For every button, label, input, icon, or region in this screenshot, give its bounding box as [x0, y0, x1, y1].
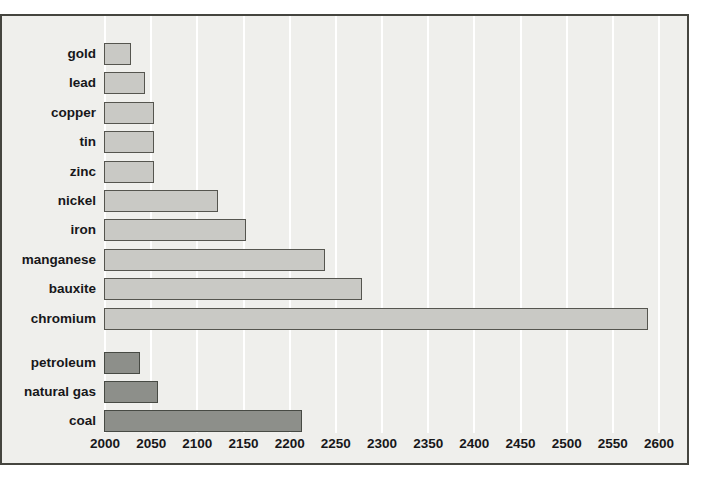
- x-axis-tick-label: 2300: [360, 435, 404, 452]
- gridline: [520, 16, 522, 433]
- bar: [104, 381, 158, 403]
- bar-category-label: nickel: [2, 192, 96, 210]
- gridline: [566, 16, 568, 433]
- gridline: [427, 16, 429, 433]
- bar-category-label: chromium: [2, 310, 96, 328]
- x-axis-tick-label: 2500: [545, 435, 589, 452]
- gridline: [612, 16, 614, 433]
- x-axis-tick-label: 2200: [268, 435, 312, 452]
- bar: [104, 102, 154, 124]
- x-axis-tick-label: 2250: [314, 435, 358, 452]
- bar-category-label: bauxite: [2, 280, 96, 298]
- bar: [104, 190, 218, 212]
- bar-category-label: iron: [2, 221, 96, 239]
- bar: [104, 43, 131, 65]
- bar-category-label: zinc: [2, 163, 96, 181]
- x-axis-tick-label: 2000: [83, 435, 127, 452]
- bar: [104, 131, 154, 153]
- bar-category-label: gold: [2, 45, 96, 63]
- bar-category-label: manganese: [2, 251, 96, 269]
- bar: [104, 72, 145, 94]
- x-axis-tick-label: 2450: [499, 435, 543, 452]
- bar-category-label: copper: [2, 104, 96, 122]
- x-axis-tick-label: 2350: [406, 435, 450, 452]
- bar-category-label: petroleum: [2, 354, 96, 372]
- gridline: [335, 16, 337, 433]
- gridline: [658, 16, 660, 433]
- bar: [104, 410, 302, 432]
- x-axis-tick-label: 2400: [452, 435, 496, 452]
- gridline: [289, 16, 291, 433]
- bar: [104, 249, 325, 271]
- bar-category-label: lead: [2, 74, 96, 92]
- x-axis-tick-label: 2100: [175, 435, 219, 452]
- plot-area: 2000205021002150220022502300235024002450…: [0, 14, 689, 465]
- bar: [104, 308, 648, 330]
- bar: [104, 278, 362, 300]
- x-axis-tick-label: 2550: [591, 435, 635, 452]
- bar: [104, 219, 246, 241]
- x-axis-tick-label: 2600: [637, 435, 681, 452]
- bar: [104, 161, 154, 183]
- bar-category-label: coal: [2, 412, 96, 430]
- x-axis-tick-label: 2150: [222, 435, 266, 452]
- x-axis-tick-label: 2050: [129, 435, 173, 452]
- gridline: [473, 16, 475, 433]
- bar: [104, 352, 140, 374]
- gridline: [381, 16, 383, 433]
- bar-category-label: tin: [2, 133, 96, 151]
- bar-category-label: natural gas: [2, 383, 96, 401]
